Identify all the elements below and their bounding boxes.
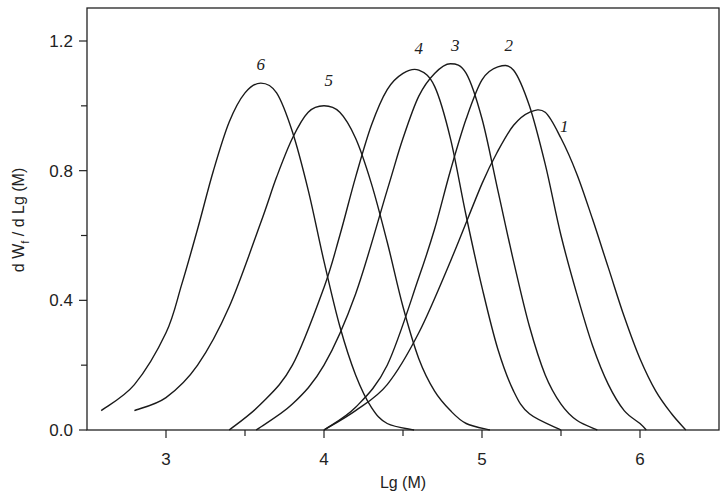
curve-label-3: 3 [450,36,460,55]
curve-3 [256,64,597,430]
curve-label-6: 6 [257,55,266,74]
y-axis-title-part2: / d Lg (M) [10,168,27,241]
x-tick-label: 6 [635,450,644,469]
y-axis-title: d Wf / d Lg (M) [10,168,31,272]
x-tick-label: 3 [161,450,170,469]
y-tick-label: 0.4 [49,291,73,310]
y-tick-label: 0.8 [49,162,73,181]
curve-label-4: 4 [415,39,424,58]
x-axis: 3456 [161,430,644,469]
x-axis-title: Lg (M) [380,474,426,491]
y-axis: 0.00.40.81.2 [49,32,87,440]
x-tick-label: 4 [319,450,328,469]
x-tick-label: 5 [477,450,486,469]
y-tick-label: 0.0 [49,421,73,440]
curves [101,64,686,430]
curve-label-2: 2 [505,36,514,55]
chart: 3456 0.00.40.81.2 123456 Lg (M) d Wf / d… [0,0,725,500]
curve-2 [324,65,646,430]
plot-frame [87,8,719,430]
y-axis-title-part1: d W [10,243,27,272]
curve-label-5: 5 [324,71,333,90]
curve-label-1: 1 [560,117,569,136]
curve-5 [134,106,490,430]
y-tick-label: 1.2 [49,32,73,51]
